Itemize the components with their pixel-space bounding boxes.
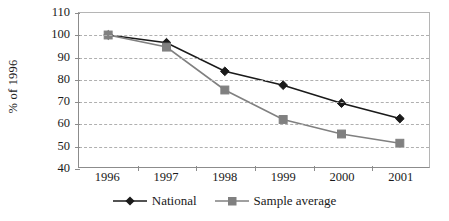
y-axis-tick xyxy=(75,124,80,125)
y-axis-tick-label: 50 xyxy=(58,138,71,153)
y-axis-tick xyxy=(75,147,80,148)
gridline xyxy=(79,35,429,36)
diamond-marker xyxy=(279,81,288,90)
y-axis-tick-label: 80 xyxy=(58,71,71,86)
square-marker xyxy=(163,43,171,51)
square-marker xyxy=(221,86,229,94)
series-national xyxy=(104,31,404,123)
y-axis-title: % of 1996 xyxy=(4,0,24,172)
legend-item[interactable]: Sample average xyxy=(215,193,337,209)
gridline xyxy=(79,58,429,59)
gridline xyxy=(79,147,429,148)
y-axis-tick xyxy=(75,58,80,59)
plot-area xyxy=(78,12,430,168)
diamond-marker xyxy=(113,195,147,207)
x-axis-tick-label: 1999 xyxy=(271,170,296,185)
y-axis-tick-label: 40 xyxy=(58,161,71,176)
y-axis-tick xyxy=(75,102,80,103)
y-axis-tick-label: 110 xyxy=(52,5,70,20)
y-axis-tick-labels: 110100908070605040 xyxy=(26,0,74,180)
gridline xyxy=(79,80,429,81)
gridline xyxy=(79,124,429,125)
y-axis-tick xyxy=(75,13,80,14)
legend-label: National xyxy=(149,193,197,209)
x-axis-tick-label: 1997 xyxy=(154,170,179,185)
y-axis-tick xyxy=(75,80,80,81)
legend-item[interactable]: National xyxy=(113,193,197,209)
x-axis-tick-labels: 199619971998199920002001 xyxy=(78,170,430,188)
series-sample-average xyxy=(104,31,404,147)
diamond-marker xyxy=(337,99,346,108)
x-axis-tick-label: 1996 xyxy=(95,170,120,185)
diamond-marker xyxy=(395,114,404,123)
x-axis-tick-label: 2001 xyxy=(388,170,413,185)
y-axis-tick-label: 90 xyxy=(58,49,71,64)
chart-legend: NationalSample average xyxy=(0,193,449,209)
y-axis-title-text: % of 1996 xyxy=(7,59,22,113)
square-marker xyxy=(279,116,287,124)
x-axis-tick-label: 1998 xyxy=(212,170,237,185)
y-axis-tick xyxy=(75,35,80,36)
series-line xyxy=(108,35,400,119)
y-axis-tick-label: 60 xyxy=(58,116,71,131)
line-chart: % of 1996 110100908070605040 19961997199… xyxy=(0,0,449,221)
y-axis-tick-label: 70 xyxy=(58,94,71,109)
square-marker xyxy=(338,130,346,138)
gridline xyxy=(79,102,429,103)
square-marker xyxy=(215,195,249,207)
legend-label: Sample average xyxy=(251,193,337,209)
x-axis-tick-label: 2000 xyxy=(330,170,355,185)
diamond-marker xyxy=(220,67,229,76)
y-axis-tick-label: 100 xyxy=(51,27,70,42)
series-line xyxy=(108,35,400,143)
